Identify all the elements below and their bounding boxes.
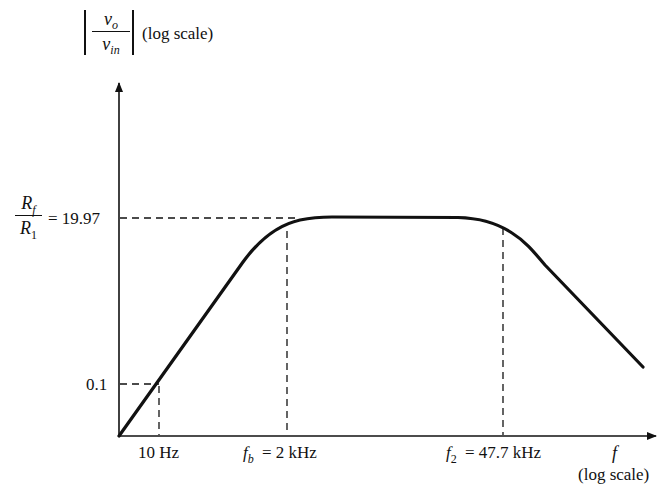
- y-low-label: 0.1: [86, 376, 107, 393]
- response-curve: [119, 217, 643, 436]
- gain-value-label: = 19.97: [48, 210, 100, 227]
- x-axis-scale-label: (log scale): [578, 466, 649, 483]
- y-axis-ratio: vo vin: [92, 10, 130, 53]
- x-10hz-label: 10 Hz: [138, 444, 179, 461]
- abs-bar-right: [132, 10, 134, 55]
- x-axis-symbol: f: [612, 444, 617, 462]
- frequency-response-plot: [0, 0, 667, 492]
- gain-ratio: Rf R1: [15, 194, 42, 237]
- fb-label: fb = 2 kHz: [243, 444, 317, 461]
- f2-label: f2 = 47.7 kHz: [446, 444, 541, 461]
- y-axis-scale-label: (log scale): [142, 25, 213, 42]
- abs-bar-left: [84, 10, 86, 55]
